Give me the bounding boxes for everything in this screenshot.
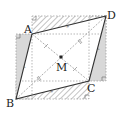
label-A: A — [23, 23, 33, 36]
arrow-mark-BC: » — [49, 87, 53, 94]
parallelogram-diagram: » » › › A D B C M — [0, 0, 121, 117]
label-C: C — [87, 82, 95, 95]
center-point-M — [60, 56, 63, 59]
label-D: D — [107, 9, 116, 22]
label-B: B — [6, 97, 14, 110]
label-M: M — [56, 61, 67, 74]
tick-AM — [44, 44, 48, 48]
